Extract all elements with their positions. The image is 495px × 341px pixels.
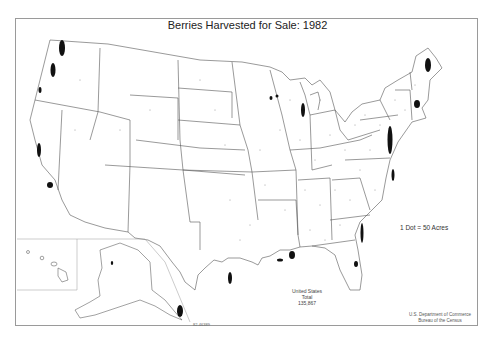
alaska xyxy=(75,243,182,320)
map-legend: 1 Dot = 50 Acres xyxy=(400,224,448,231)
map-title: Berries Harvested for Sale: 1982 xyxy=(0,19,495,31)
dot-clusters xyxy=(37,40,431,317)
us-dot-map xyxy=(0,0,495,341)
state-boundaries xyxy=(30,40,442,290)
hawaii xyxy=(27,251,69,283)
total-value: 135,867 xyxy=(282,300,332,306)
us-total: United States Total 135,867 xyxy=(282,288,332,306)
map-code: 82-46389 xyxy=(193,322,210,327)
credit-line2: Bureau of the Census xyxy=(400,318,480,324)
source-credit: U.S. Department of Commerce Bureau of th… xyxy=(400,312,480,324)
